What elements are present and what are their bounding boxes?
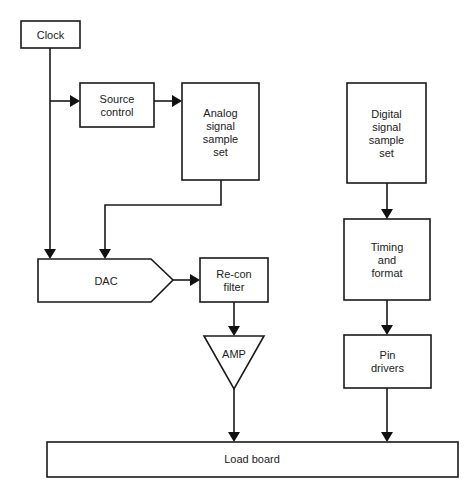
svg-text:AMP: AMP	[222, 348, 246, 360]
source-control-block: Source control	[80, 83, 154, 127]
analog-signal-sample-set-block: Analog signal sample set	[182, 83, 259, 180]
svg-text:control: control	[100, 106, 133, 118]
svg-text:and: and	[378, 254, 396, 266]
svg-text:format: format	[371, 267, 402, 279]
amp-block: AMP	[204, 336, 264, 389]
arrowhead-icon	[190, 274, 200, 286]
arrowhead-icon	[381, 209, 393, 219]
recon-filter-block: Re-con filter	[200, 258, 268, 302]
svg-text:Clock: Clock	[37, 29, 65, 41]
svg-text:drivers: drivers	[371, 362, 405, 374]
svg-text:Pin: Pin	[380, 349, 396, 361]
svg-text:Analog: Analog	[203, 107, 237, 119]
arrowhead-icon	[172, 95, 182, 107]
svg-text:filter: filter	[224, 281, 245, 293]
svg-text:Digital: Digital	[371, 108, 402, 120]
arrowhead-icon	[70, 95, 80, 107]
clock-block: Clock	[21, 21, 80, 48]
arrowhead-icon	[99, 249, 111, 259]
svg-text:signal: signal	[206, 120, 235, 132]
svg-text:Source: Source	[100, 93, 135, 105]
arrowhead-icon	[228, 326, 240, 336]
svg-text:sample: sample	[369, 134, 404, 146]
timing-and-format-block: Timing and format	[344, 219, 430, 300]
svg-text:Re-con: Re-con	[216, 268, 251, 280]
svg-text:Timing: Timing	[371, 241, 404, 253]
analog-to-dac-line	[105, 180, 221, 250]
svg-text:set: set	[213, 146, 228, 158]
svg-text:Load board: Load board	[224, 453, 280, 465]
svg-text:set: set	[379, 147, 394, 159]
arrowhead-icon	[381, 432, 393, 442]
block-diagram: Clock Source control Analog signal sampl…	[0, 0, 473, 496]
svg-text:signal: signal	[372, 121, 401, 133]
arrowhead-icon	[44, 249, 56, 259]
svg-text:sample: sample	[203, 133, 238, 145]
dac-block: DAC	[38, 259, 173, 302]
arrowhead-icon	[381, 325, 393, 335]
arrowhead-icon	[228, 432, 240, 442]
pin-drivers-block: Pin drivers	[344, 335, 431, 388]
digital-signal-sample-set-block: Digital signal sample set	[347, 83, 426, 183]
load-board-block: Load board	[47, 442, 458, 477]
svg-text:DAC: DAC	[94, 275, 117, 287]
